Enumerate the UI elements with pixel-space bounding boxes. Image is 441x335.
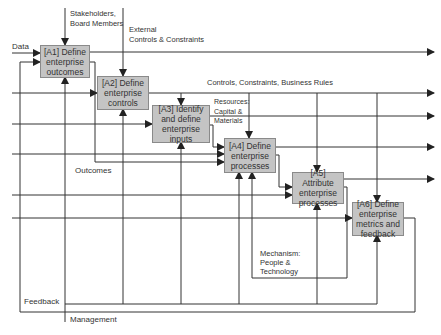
label-external-controls: External Controls & Constraints <box>129 25 204 45</box>
label-outcomes: Outcomes <box>75 166 111 176</box>
idef0-diagram: [A1] Define enterprise outcomes [A2] Def… <box>0 0 441 335</box>
label-resources: Resources: Capital & Materials <box>214 97 249 126</box>
process-box-a4: [A4] Define enterprise processes <box>224 138 276 173</box>
label-feedback: Feedback <box>24 297 59 307</box>
label-data: Data <box>12 42 29 52</box>
process-box-a2: [A2] Define enterprise controls <box>97 76 149 110</box>
label-management: Management <box>70 315 117 325</box>
label-stakeholders: Stakeholders, Board Members <box>70 9 123 29</box>
process-box-a3: [A3] Identify and define enterprise inpu… <box>152 105 210 143</box>
process-box-a1: [A1] Define enterprise outcomes <box>40 45 90 78</box>
process-box-a6: [A6] Define enterprise metrics and feedb… <box>352 202 404 236</box>
label-controls-rules: Controls, Constraints, Business Rules <box>207 78 333 88</box>
label-mechanism: Mechanism: People & Technology <box>260 249 300 276</box>
process-box-a5: [A5] Attribute enterprise processes <box>292 172 344 204</box>
